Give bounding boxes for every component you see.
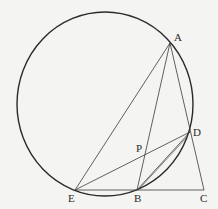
background [0, 0, 218, 209]
label-P: P [136, 142, 142, 154]
label-E: E [68, 192, 75, 204]
label-C: C [200, 192, 207, 204]
label-D: D [193, 126, 201, 138]
geometry-diagram: A D P E B C [0, 0, 218, 209]
label-B: B [134, 192, 141, 204]
label-A: A [174, 31, 182, 43]
